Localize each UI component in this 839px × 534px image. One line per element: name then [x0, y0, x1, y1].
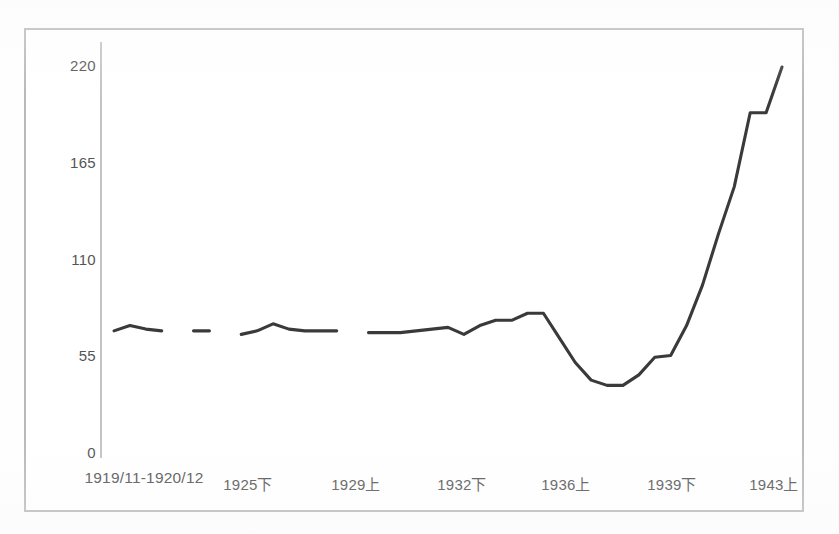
chart-frame: 0 55 110 165 220 1919/11-1920/12 1925下 1…: [24, 28, 804, 512]
plot-area: 0 55 110 165 220 1919/11-1920/12 1925下 1…: [26, 30, 802, 510]
scanned-chart-page: 0 55 110 165 220 1919/11-1920/12 1925下 1…: [0, 0, 839, 534]
series-line-segment: [241, 324, 336, 335]
series-line-segment: [368, 67, 782, 385]
series-line-segment: [114, 326, 162, 331]
line-series-svg: [26, 30, 802, 510]
